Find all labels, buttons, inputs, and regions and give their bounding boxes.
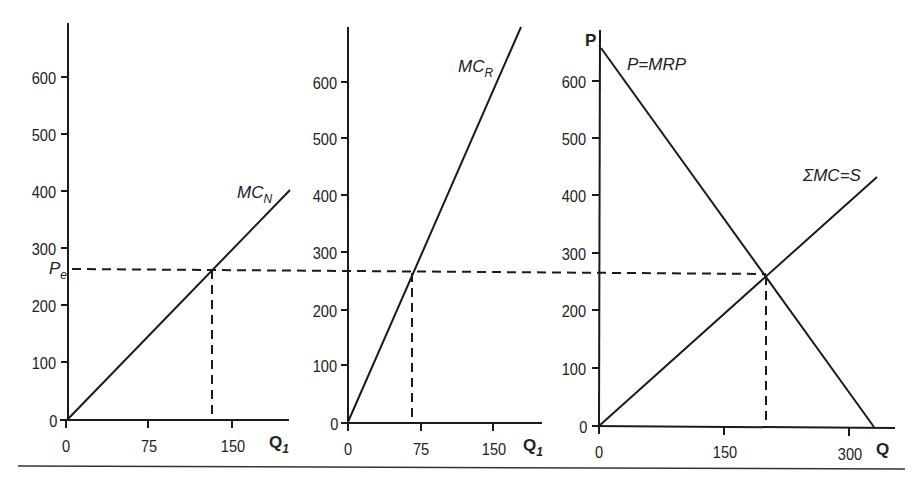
y-tick-label: 500 <box>562 130 587 148</box>
y-tick-label: 0 <box>579 418 587 436</box>
mc-r-label: MCR <box>458 57 493 80</box>
y-tick-label: 300 <box>313 244 338 262</box>
y-tick-label: 100 <box>313 357 338 375</box>
y-tick-label: 400 <box>562 187 587 205</box>
mc-n-curve <box>67 190 290 420</box>
supply-sum-mc-label: ΣMC=S <box>802 166 862 185</box>
y-tick-label: 600 <box>562 73 587 91</box>
x-axis-label: Q1 <box>269 433 289 456</box>
x-tick-label: 150 <box>482 440 507 458</box>
x-tick-label: 75 <box>141 437 157 455</box>
y-tick-label: 600 <box>32 69 57 87</box>
y-tick-label: 600 <box>313 74 338 92</box>
y-axis-label: P <box>585 31 596 50</box>
mc-r-curve <box>348 27 521 422</box>
x-tick-label: 0 <box>62 437 70 455</box>
y-axis <box>599 30 600 426</box>
y-tick-labels: 0 100 200 300 400 500 600 <box>313 74 339 433</box>
y-ticks <box>61 77 68 420</box>
demand-mrp-label: P=MRP <box>627 55 687 74</box>
x-tick-labels: 0 75 150 <box>62 437 245 455</box>
x-axis <box>592 426 895 428</box>
y-ticks <box>592 81 599 426</box>
y-tick-label: 100 <box>562 360 587 378</box>
y-tick-label: 0 <box>49 412 57 430</box>
y-tick-label: 200 <box>313 302 338 320</box>
y-tick-labels: 0 100 200 300 400 500 600 <box>32 69 58 430</box>
y-tick-label: 100 <box>32 354 57 372</box>
y-tick-label: 300 <box>32 240 57 258</box>
y-tick-labels: 0 100 200 300 400 500 600 <box>562 73 588 436</box>
y-ticks <box>341 82 348 423</box>
three-panel-market-chart: 0 100 200 300 400 500 600 0 75 150 Q1 MC… <box>0 0 914 484</box>
demand-mrp-curve <box>601 48 874 427</box>
x-tick-labels: 0 150 300 <box>595 443 862 463</box>
x-tick-label: 150 <box>221 437 246 455</box>
panel-right: P 0 100 200 300 400 500 600 0 150 3 <box>562 30 895 463</box>
supply-sum-mc-curve <box>599 177 877 426</box>
panel-left: 0 100 200 300 400 500 600 0 75 150 Q1 MC… <box>32 23 290 456</box>
x-tick-label: 75 <box>413 440 429 458</box>
x-tick-label: 150 <box>713 443 738 461</box>
y-tick-label: 300 <box>562 245 587 263</box>
y-tick-label: 200 <box>562 302 587 320</box>
bottom-rule <box>18 466 905 469</box>
x-tick-labels: 0 75 150 <box>344 440 506 458</box>
equilibrium-price-label: Pe <box>49 259 67 282</box>
y-tick-label: 500 <box>313 130 338 148</box>
x-ticks <box>66 420 232 428</box>
y-tick-label: 500 <box>32 126 57 144</box>
y-tick-label: 400 <box>32 183 57 201</box>
x-tick-label: 300 <box>838 445 863 463</box>
y-tick-label: 400 <box>313 187 338 205</box>
x-tick-label: 0 <box>344 440 352 458</box>
y-tick-label: 200 <box>32 297 57 315</box>
y-tick-label: 0 <box>330 415 338 433</box>
x-ticks <box>348 423 493 431</box>
x-axis-label: Q <box>876 440 889 459</box>
mc-n-label: MCN <box>237 183 272 206</box>
x-tick-label: 0 <box>595 443 603 461</box>
equilibrium-price-dashed-line <box>72 269 766 274</box>
x-axis-label: Q1 <box>523 436 543 459</box>
panel-middle: 0 100 200 300 400 500 600 0 75 150 Q1 MC… <box>313 27 544 459</box>
